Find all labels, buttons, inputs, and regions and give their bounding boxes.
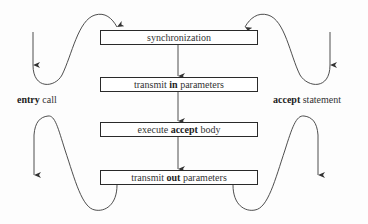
label-text: statement — [300, 94, 341, 105]
box-keyword: accept — [171, 124, 198, 135]
box-transmit-in: transmit in parameters — [100, 77, 258, 92]
label-text: call — [40, 94, 57, 105]
box-transmit-out: transmit out parameters — [100, 170, 258, 185]
box-text: body — [198, 124, 221, 135]
box-keyword: out — [167, 172, 181, 183]
box-text: execute — [138, 124, 171, 135]
label-keyword: accept — [273, 94, 300, 105]
box-text: transmit — [131, 172, 166, 183]
rendezvous-diagram: synchronization transmit in parameters e… — [0, 0, 368, 224]
box-execute-accept: execute accept body — [100, 122, 258, 137]
box-text: parameters — [178, 79, 224, 90]
accept-statement-label: accept statement — [273, 94, 341, 105]
box-text: synchronization — [147, 32, 211, 43]
box-text: parameters — [180, 172, 226, 183]
entry-call-label: entry call — [17, 94, 57, 105]
label-keyword: entry — [17, 94, 40, 105]
box-keyword: in — [169, 79, 177, 90]
box-text: transmit — [134, 79, 169, 90]
box-synchronization: synchronization — [100, 30, 258, 45]
